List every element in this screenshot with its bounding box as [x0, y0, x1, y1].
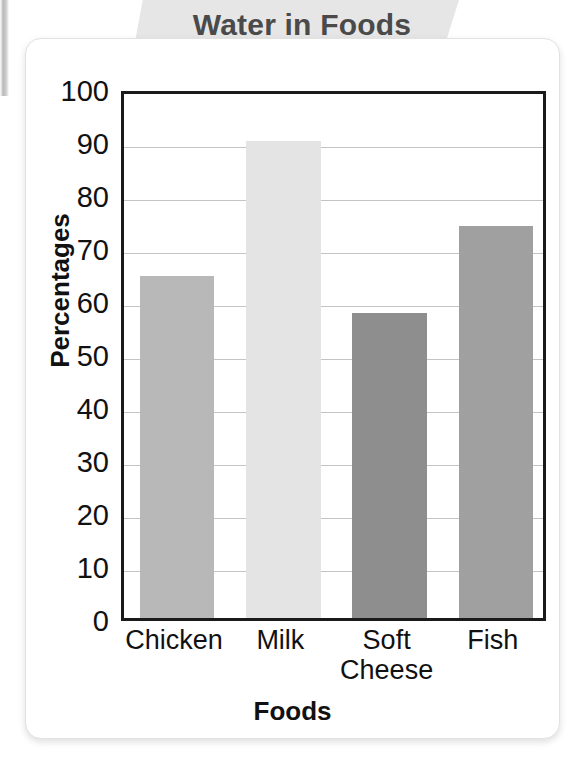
- x-tick-label: Chicken: [121, 625, 227, 655]
- y-tick-label: 50: [77, 342, 109, 371]
- bar: [246, 141, 320, 618]
- y-tick-label: 40: [77, 395, 109, 424]
- x-tick-label: Soft Cheese: [334, 625, 440, 685]
- y-tick-label: 100: [61, 77, 109, 106]
- chart-card: Percentages 1009080706050403020100 Chick…: [25, 38, 560, 739]
- page-edge-strip: [0, 0, 9, 96]
- y-tick-label: 60: [77, 289, 109, 318]
- y-tick-label: 10: [77, 554, 109, 583]
- y-tick-label: 0: [93, 607, 109, 636]
- x-axis-title: Foods: [26, 696, 559, 727]
- plot-area: [121, 91, 546, 621]
- y-tick-label: 70: [77, 236, 109, 265]
- x-axis-tick-labels: ChickenMilkSoft CheeseFish: [121, 625, 546, 695]
- chart-title: Water in Foods: [193, 8, 411, 42]
- y-tick-label: 20: [77, 501, 109, 530]
- bar: [352, 313, 426, 618]
- x-tick-label: Milk: [227, 625, 333, 655]
- bar-series: [124, 94, 543, 618]
- y-axis-tick-labels: 1009080706050403020100: [26, 91, 118, 621]
- x-tick-label: Fish: [440, 625, 546, 655]
- y-tick-label: 90: [77, 130, 109, 159]
- y-tick-label: 80: [77, 183, 109, 212]
- y-tick-label: 30: [77, 448, 109, 477]
- bar: [459, 226, 533, 618]
- bar: [140, 276, 214, 618]
